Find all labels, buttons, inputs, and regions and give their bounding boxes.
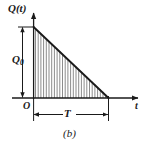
y-axis-label: Q(t) <box>8 3 26 14</box>
duration-label: T <box>64 108 71 119</box>
x-axis-label: t <box>135 101 138 111</box>
figure-caption: (b) <box>63 128 76 139</box>
amplitude-label: Q0 <box>12 54 24 65</box>
origin-label: O <box>23 101 30 111</box>
figure-container: Q(t) Q0 O t T (b) <box>0 0 151 150</box>
amplitude-label-subscript: 0 <box>20 58 24 67</box>
amplitude-label-main: Q <box>12 53 20 65</box>
